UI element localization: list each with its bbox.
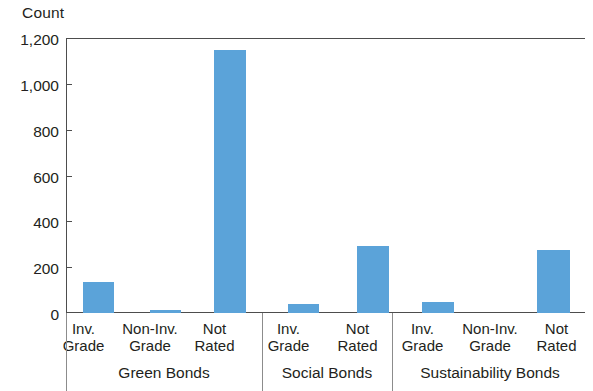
y-tick-label: 600 <box>0 170 66 186</box>
y-tick-label: 400 <box>0 215 66 231</box>
x-tick-label-sustainability-inv-grade: Inv. Grade <box>385 320 460 354</box>
group-label-sustainability-bonds: Sustainability Bonds <box>392 364 588 382</box>
bar-green-inv-grade[interactable] <box>83 282 114 313</box>
bar-social-not-rated[interactable] <box>357 246 389 313</box>
x-tick-label-social-not-rated: Not Rated <box>320 320 395 354</box>
y-tick-label: 800 <box>0 124 66 140</box>
bars-layer <box>66 38 585 313</box>
bar-green-non-inv-grade[interactable] <box>150 310 181 313</box>
bar-green-not-rated[interactable] <box>214 50 246 313</box>
x-tick-label-sustainability-not-rated: Not Rated <box>519 320 593 354</box>
group-label-green-bonds: Green Bonds <box>66 364 262 382</box>
bar-sustainability-inv-grade[interactable] <box>422 302 454 313</box>
group-label-social-bonds: Social Bonds <box>262 364 392 382</box>
bar-social-inv-grade[interactable] <box>288 304 319 313</box>
group-separator-1 <box>262 313 263 391</box>
y-tick-label: 200 <box>0 261 66 277</box>
x-tick-label-green-not-rated: Not Rated <box>177 320 252 354</box>
bar-sustainability-not-rated[interactable] <box>537 250 570 313</box>
group-separator-2 <box>392 313 393 391</box>
bar-chart: Count 1,200 1,000 800 600 400 200 0 Inv.… <box>0 0 593 391</box>
y-tick-label: 1,200 <box>0 32 66 48</box>
y-tick-label: 1,000 <box>0 78 66 94</box>
group-separator-left <box>66 313 67 391</box>
x-tick-label-sustainability-non-inv-grade: Non-Inv. Grade <box>450 320 530 354</box>
